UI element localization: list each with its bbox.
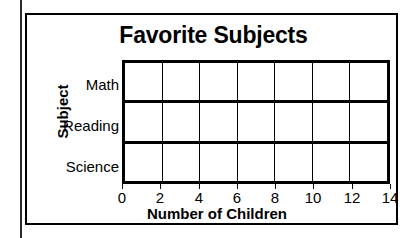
chart-title: Favorite Subjects <box>27 21 400 49</box>
chart-grid-cell <box>162 103 200 140</box>
x-tick-label: 6 <box>225 189 249 206</box>
chart-grid-row <box>125 100 387 140</box>
chart-grid-cell <box>125 144 162 181</box>
y-tick-label-reading: Reading <box>40 117 119 134</box>
chart-grid-cell <box>312 103 350 140</box>
chart-grid-cell <box>199 144 237 181</box>
x-tick-label: 14 <box>378 189 402 206</box>
x-tick-label: 4 <box>187 189 211 206</box>
chart-grid-cell <box>125 103 162 140</box>
y-tick-label-science: Science <box>40 158 119 175</box>
chart-grid-cell <box>274 103 312 140</box>
chart-grid-cell <box>274 63 312 100</box>
chart-grid-row <box>125 63 387 100</box>
chart-grid-cell <box>349 144 387 181</box>
chart-grid-cell <box>237 144 275 181</box>
chart-grid-row <box>125 141 387 181</box>
chart-grid-cell <box>274 144 312 181</box>
x-tick-label: 8 <box>263 189 287 206</box>
chart-grid <box>125 63 387 181</box>
chart-grid-cell <box>349 63 387 100</box>
chart-grid-cell <box>125 63 162 100</box>
y-axis-tick-labels: Math Reading Science <box>40 60 119 184</box>
x-tick-label: 0 <box>110 189 134 206</box>
chart-grid-cell <box>349 103 387 140</box>
x-tick-label: 2 <box>148 189 172 206</box>
chart-grid-cell <box>162 144 200 181</box>
plot-area <box>122 60 390 184</box>
y-tick-label-math: Math <box>40 76 119 93</box>
chart-grid-cell <box>237 63 275 100</box>
chart-grid-cell <box>237 103 275 140</box>
worksheet-card: Favorite Subjects Subject Math Reading S… <box>25 13 398 225</box>
page-binding-edge <box>20 0 22 238</box>
x-axis-title: Number of Children <box>67 205 367 222</box>
chart-grid-cell <box>312 144 350 181</box>
chart-grid-cell <box>199 63 237 100</box>
x-tick-label: 12 <box>340 189 364 206</box>
chart-grid-cell <box>199 103 237 140</box>
x-tick-label: 10 <box>301 189 325 206</box>
chart-grid-cell <box>312 63 350 100</box>
chart-grid-cell <box>162 63 200 100</box>
